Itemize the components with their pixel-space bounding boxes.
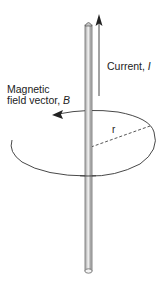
current-symbol: I [148, 60, 151, 72]
current-label-text: Current, [107, 60, 145, 72]
magnetic-field-label: Magnetic field vector, B [7, 84, 70, 106]
wire [85, 23, 92, 274]
radius-line [91, 126, 150, 147]
diagram-svg [0, 0, 167, 299]
field-label-line2: field vector, [7, 94, 60, 106]
radius-label: r [112, 124, 115, 135]
current-arrow [96, 14, 103, 96]
field-arrowhead-icon [52, 110, 63, 119]
current-label: Current, I [107, 61, 151, 72]
field-symbol: B [63, 94, 70, 106]
magnetic-field-loop [11, 110, 155, 176]
diagram-canvas: Current, I Magnetic field vector, B r [0, 0, 167, 299]
